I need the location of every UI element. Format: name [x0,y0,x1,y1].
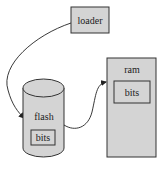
ram-bits-label: bits [125,87,140,98]
diagram-svg: loader flash bits ram bits [0,0,160,171]
flash-node: flash bits [23,79,64,157]
flash-bits-node: bits [31,130,55,145]
flash-label: flash [34,111,53,122]
ram-bits-node: bits [114,81,150,103]
arrow-flash-to-ram [64,82,106,128]
loader-label: loader [78,15,104,26]
ram-label: ram [124,64,140,75]
loader-node: loader [71,7,109,33]
diagram-canvas: loader flash bits ram bits [0,0,160,171]
ram-node: ram bits [107,58,156,157]
flash-bits-label: bits [36,132,51,143]
